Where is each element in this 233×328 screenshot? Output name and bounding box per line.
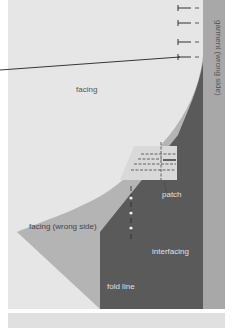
label-patch: patch [162, 190, 182, 199]
label-garment: garment (wrong side) [214, 20, 223, 96]
bottom-strip [8, 313, 225, 328]
label-facing: facing [76, 85, 97, 94]
label-facing-wrong-side: facing (wrong side) [29, 222, 97, 231]
facing-interfacing-diagram: facing garment (wrong side) patch facing… [0, 0, 233, 328]
label-fold-line: fold line [107, 282, 135, 291]
label-interfacing: interfacing [152, 247, 189, 256]
